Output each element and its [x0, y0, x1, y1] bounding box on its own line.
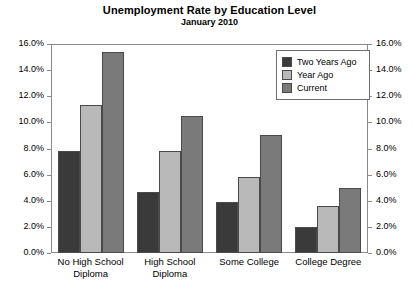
- legend-swatch-icon: [282, 70, 292, 80]
- chart-subtitle: January 2010: [0, 17, 419, 27]
- y-axis-tick-left: [47, 70, 51, 71]
- chart-legend: Two Years AgoYear AgoCurrent: [276, 50, 370, 100]
- y-axis-tick-label-right: 6.0%: [376, 170, 397, 179]
- y-axis-tick-left: [47, 96, 51, 97]
- bar: [181, 116, 203, 253]
- y-axis-tick-label-left: 8.0%: [23, 144, 44, 153]
- legend-swatch-icon: [282, 83, 292, 93]
- y-axis-tick-right: [368, 44, 372, 45]
- y-axis-tick-label-right: 16.0%: [376, 39, 402, 48]
- y-axis-tick-label-left: 6.0%: [23, 170, 44, 179]
- y-axis-tick-left: [47, 175, 51, 176]
- y-axis-tick-label-left: 10.0%: [18, 117, 44, 126]
- legend-label: Current: [297, 83, 327, 93]
- y-axis-tick-left: [47, 253, 51, 254]
- y-axis-tick-right: [368, 122, 372, 123]
- chart-container: Unemployment Rate by Education Level Jan…: [0, 0, 419, 297]
- y-axis-tick-label-left: 14.0%: [18, 65, 44, 74]
- y-axis-tick-label-left: 12.0%: [18, 91, 44, 100]
- bar: [317, 206, 339, 253]
- y-axis-tick-left: [47, 201, 51, 202]
- bar: [58, 151, 80, 253]
- y-axis-tick-right: [368, 175, 372, 176]
- y-axis-tick-left: [47, 227, 51, 228]
- y-axis-tick-label-left: 2.0%: [23, 222, 44, 231]
- y-axis-tick-label-left: 0.0%: [23, 248, 44, 257]
- x-axis-category-label: No High School Diploma: [51, 256, 130, 280]
- y-axis-tick-label-right: 8.0%: [376, 144, 397, 153]
- y-axis-tick-right: [368, 201, 372, 202]
- y-axis-tick-right: [368, 253, 372, 254]
- bar: [159, 151, 181, 253]
- legend-label: Year Ago: [297, 70, 333, 80]
- x-axis-category-label: High School Diploma: [130, 256, 209, 280]
- y-axis-tick-label-right: 10.0%: [376, 117, 402, 126]
- y-axis-tick-label-left: 16.0%: [18, 39, 44, 48]
- y-axis-tick-left: [47, 122, 51, 123]
- bar: [238, 177, 260, 253]
- bar: [80, 105, 102, 253]
- x-axis-category-label: Some College: [210, 256, 289, 268]
- y-axis-tick-label-left: 4.0%: [23, 196, 44, 205]
- plot-top-border: [51, 44, 368, 45]
- chart-title: Unemployment Rate by Education Level: [0, 4, 419, 16]
- y-axis-tick-right: [368, 149, 372, 150]
- bar: [295, 227, 317, 253]
- legend-item: Current: [282, 82, 364, 94]
- bar: [339, 188, 361, 253]
- y-axis-tick-left: [47, 149, 51, 150]
- legend-swatch-icon: [282, 57, 292, 67]
- legend-item: Two Years Ago: [282, 56, 364, 68]
- x-axis-category-label: College Degree: [289, 256, 368, 268]
- legend-item: Year Ago: [282, 69, 364, 81]
- y-axis-tick-right: [368, 227, 372, 228]
- bar: [216, 202, 238, 253]
- y-axis-tick-label-right: 2.0%: [376, 222, 397, 231]
- y-axis-tick-label-right: 0.0%: [376, 248, 397, 257]
- y-axis-tick-label-right: 14.0%: [376, 65, 402, 74]
- bar: [102, 52, 124, 253]
- bar: [260, 135, 282, 253]
- y-axis-tick-left: [47, 44, 51, 45]
- y-axis-left-line: [51, 44, 52, 253]
- legend-label: Two Years Ago: [297, 57, 357, 67]
- bar: [137, 192, 159, 253]
- y-axis-tick-label-right: 4.0%: [376, 196, 397, 205]
- y-axis-tick-label-right: 12.0%: [376, 91, 402, 100]
